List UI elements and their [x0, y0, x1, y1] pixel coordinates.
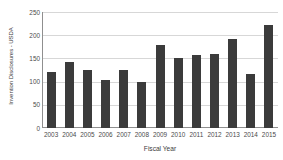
- x-axis-tick-label: 2006: [96, 130, 114, 142]
- x-axis-tick-labels: 2003200420052006200720082009201020112012…: [42, 130, 278, 142]
- bar[interactable]: [83, 70, 92, 128]
- bar[interactable]: [192, 55, 201, 128]
- x-axis-tick-label: 2014: [242, 130, 260, 142]
- bar-slot: [133, 12, 151, 128]
- y-axis-tick-label: 200: [18, 32, 40, 39]
- x-axis-tick-label: 2015: [260, 130, 278, 142]
- bar[interactable]: [47, 72, 56, 128]
- bar[interactable]: [210, 54, 219, 128]
- bar-slot: [42, 12, 60, 128]
- bar-slot: [78, 12, 96, 128]
- y-axis-title: Invention Disclosures - USDA: [4, 2, 18, 130]
- bar-slot: [151, 12, 169, 128]
- x-axis-tick-label: 2010: [169, 130, 187, 142]
- bar[interactable]: [65, 62, 74, 128]
- bar[interactable]: [156, 45, 165, 128]
- bar-chart: Invention Disclosures - USDA 250 200 150…: [0, 0, 283, 160]
- bar[interactable]: [101, 80, 110, 128]
- bar-slot: [169, 12, 187, 128]
- bar[interactable]: [246, 74, 255, 128]
- y-axis-tick-labels: 250 200 150 100 50 0: [18, 0, 40, 160]
- y-axis-tick-label: 50: [18, 101, 40, 108]
- x-axis-title: Fiscal Year: [42, 144, 278, 153]
- x-axis-tick-label: 2009: [151, 130, 169, 142]
- bar-slot: [242, 12, 260, 128]
- bars-layer: [42, 12, 278, 128]
- y-axis-tick-label: 100: [18, 78, 40, 85]
- x-axis-tick-label: 2013: [224, 130, 242, 142]
- y-axis-tick-label: 0: [18, 125, 40, 132]
- x-axis-tick-label: 2011: [187, 130, 205, 142]
- bar-slot: [60, 12, 78, 128]
- x-axis-tick-label: 2003: [42, 130, 60, 142]
- bar[interactable]: [264, 25, 273, 128]
- x-axis-tick-label: 2012: [205, 130, 223, 142]
- bar-slot: [96, 12, 114, 128]
- x-axis-tick-label: 2008: [133, 130, 151, 142]
- bar-slot: [224, 12, 242, 128]
- bar[interactable]: [119, 70, 128, 128]
- x-axis-tick-label: 2004: [60, 130, 78, 142]
- y-axis-tick-label: 250: [18, 9, 40, 16]
- x-axis-tick-label: 2005: [78, 130, 96, 142]
- bar-slot: [115, 12, 133, 128]
- bar-slot: [260, 12, 278, 128]
- plot-area: [42, 12, 278, 128]
- x-axis-tick-label: 2007: [115, 130, 133, 142]
- bar[interactable]: [228, 39, 237, 128]
- y-axis-tick-label: 150: [18, 55, 40, 62]
- bar-slot: [205, 12, 223, 128]
- bar[interactable]: [174, 58, 183, 128]
- bar-slot: [187, 12, 205, 128]
- bar[interactable]: [137, 82, 146, 128]
